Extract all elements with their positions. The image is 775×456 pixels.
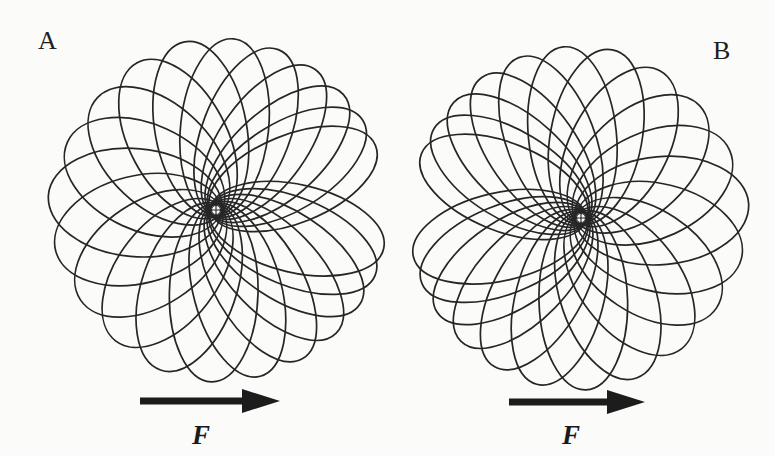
focus-marker-icon (212, 206, 221, 215)
panel-label-a: A (38, 28, 57, 54)
force-label-a: F (192, 422, 210, 449)
force-arrow-icon (140, 389, 280, 413)
panel-b-orbits (403, 41, 754, 395)
orbit-diagram (0, 0, 775, 456)
orbit-ellipse (194, 105, 392, 253)
panel-label-b: B (713, 38, 730, 64)
force-label-b: F (562, 422, 580, 449)
orbit-ellipse (538, 183, 722, 380)
focus-marker-icon (577, 214, 586, 223)
orbit-ellipse (116, 189, 263, 386)
force-arrow-icon (509, 390, 645, 414)
orbit-ellipse (76, 175, 260, 372)
orbit-ellipse (534, 197, 681, 394)
orbit-ellipse (405, 113, 603, 261)
figure-canvas: A B F F (0, 0, 775, 456)
panel-a-orbits (42, 33, 393, 387)
force-arrows (140, 389, 645, 414)
